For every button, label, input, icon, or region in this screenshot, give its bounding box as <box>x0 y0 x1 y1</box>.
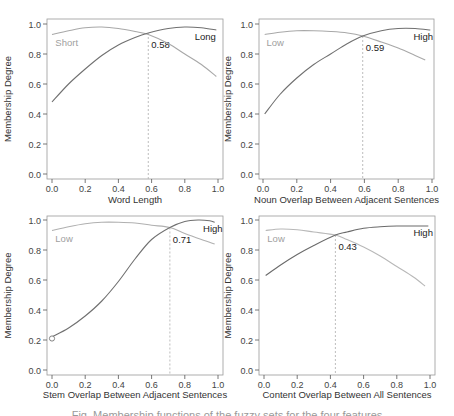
plot-frame <box>259 19 434 179</box>
x-tick-label: 0.4 <box>324 184 337 194</box>
y-tick-label: 1.0 <box>28 216 41 226</box>
y-axis-label: Membership Degree <box>2 252 13 338</box>
y-tick-label: 0.6 <box>28 80 41 90</box>
x-tick-label: 0.6 <box>358 184 371 194</box>
y-tick-label: 0.8 <box>240 50 253 60</box>
y-tick-label: 0.0 <box>28 366 41 376</box>
y-tick-label: 0.8 <box>28 50 41 60</box>
series-label-high: High <box>413 31 433 42</box>
series-label-short: Short <box>55 37 78 48</box>
plot-frame <box>47 216 223 375</box>
y-tick-label: 0.2 <box>28 336 41 346</box>
series-label-low: Low <box>55 233 73 244</box>
series-label-long: Long <box>195 31 216 42</box>
open-endpoint-marker <box>49 336 54 341</box>
x-axis-label: Stem Overlap Between Adjacent Sentences <box>43 389 228 400</box>
x-tick-label: 0.2 <box>79 184 92 194</box>
series-label-high: High <box>413 227 433 238</box>
x-axis: 0.00.20.40.60.81.0 <box>46 179 225 194</box>
y-axis-label: Membership Degree <box>222 252 233 338</box>
y-tick-label: 1.0 <box>28 20 41 30</box>
y-tick-label: 0.6 <box>240 80 253 90</box>
series-label-low: Low <box>266 37 284 48</box>
series-line-low <box>266 229 425 286</box>
y-tick-label: 0.4 <box>28 306 41 316</box>
y-tick-label: 0.4 <box>28 110 41 120</box>
x-axis-label: Content Overlap Between All Sentences <box>263 389 432 400</box>
crossover-value-label: 0.59 <box>366 42 385 53</box>
x-tick-label: 0.0 <box>257 184 270 194</box>
y-tick-label: 0.8 <box>240 246 253 256</box>
y-axis: 0.00.20.40.60.81.0 <box>240 216 259 376</box>
y-tick-label: 0.6 <box>28 276 41 286</box>
y-tick-label: 0.8 <box>28 246 41 256</box>
y-tick-label: 0.6 <box>240 276 253 286</box>
y-tick-label: 0.4 <box>240 306 253 316</box>
x-tick-label: 1.0 <box>212 184 225 194</box>
series-label-high: High <box>203 223 223 234</box>
chart-panel-2: 0.00.20.40.60.81.00.00.20.40.60.81.0Noun… <box>222 19 439 205</box>
y-axis: 0.00.20.40.60.81.0 <box>240 20 259 180</box>
x-axis-label: Word Length <box>108 194 162 205</box>
series-label-low: Low <box>267 233 285 244</box>
y-tick-label: 0.0 <box>240 170 253 180</box>
x-tick-label: 0.6 <box>145 184 158 194</box>
chart-panel-4: 0.00.20.40.60.81.00.00.20.40.60.81.0Cont… <box>222 216 436 401</box>
x-tick-label: 0.8 <box>392 184 405 194</box>
y-tick-label: 0.2 <box>28 140 41 150</box>
y-tick-label: 0.0 <box>240 366 253 376</box>
x-axis: 0.00.20.40.60.81.0 <box>257 179 439 194</box>
crossover-value-label: 0.58 <box>151 39 170 50</box>
y-tick-label: 1.0 <box>240 20 253 30</box>
x-tick-label: 0.8 <box>179 184 192 194</box>
y-axis-label: Membership Degree <box>2 56 13 142</box>
y-tick-label: 0.0 <box>28 170 41 180</box>
series-line-high <box>265 28 431 114</box>
figure-caption: Fig. Membership functions of the fuzzy s… <box>0 407 454 416</box>
chart-panel-1: 0.00.20.40.60.81.00.00.20.40.60.81.0Word… <box>2 19 224 205</box>
y-tick-label: 1.0 <box>240 216 253 226</box>
y-axis-label: Membership Degree <box>222 56 233 142</box>
x-tick-label: 0.2 <box>291 184 304 194</box>
chart-panel-3: 0.00.20.40.60.81.00.00.20.40.60.81.0Stem… <box>2 216 227 401</box>
x-tick-label: 0.0 <box>46 184 59 194</box>
membership-function-figure: 0.00.20.40.60.81.00.00.20.40.60.81.0Word… <box>0 0 454 416</box>
series-line-short <box>52 27 216 77</box>
y-tick-label: 0.2 <box>240 336 253 346</box>
y-tick-label: 0.4 <box>240 110 253 120</box>
y-axis: 0.00.20.40.60.81.0 <box>28 20 47 180</box>
x-axis: 0.00.20.40.60.81.0 <box>46 375 225 390</box>
x-axis-label: Noun Overlap Between Adjacent Sentences <box>254 194 439 205</box>
x-axis: 0.00.20.40.60.81.0 <box>258 375 437 390</box>
x-tick-label: 1.0 <box>426 184 439 194</box>
y-axis: 0.00.20.40.60.81.0 <box>28 216 47 376</box>
y-tick-label: 0.2 <box>240 140 253 150</box>
x-tick-label: 0.4 <box>112 184 125 194</box>
